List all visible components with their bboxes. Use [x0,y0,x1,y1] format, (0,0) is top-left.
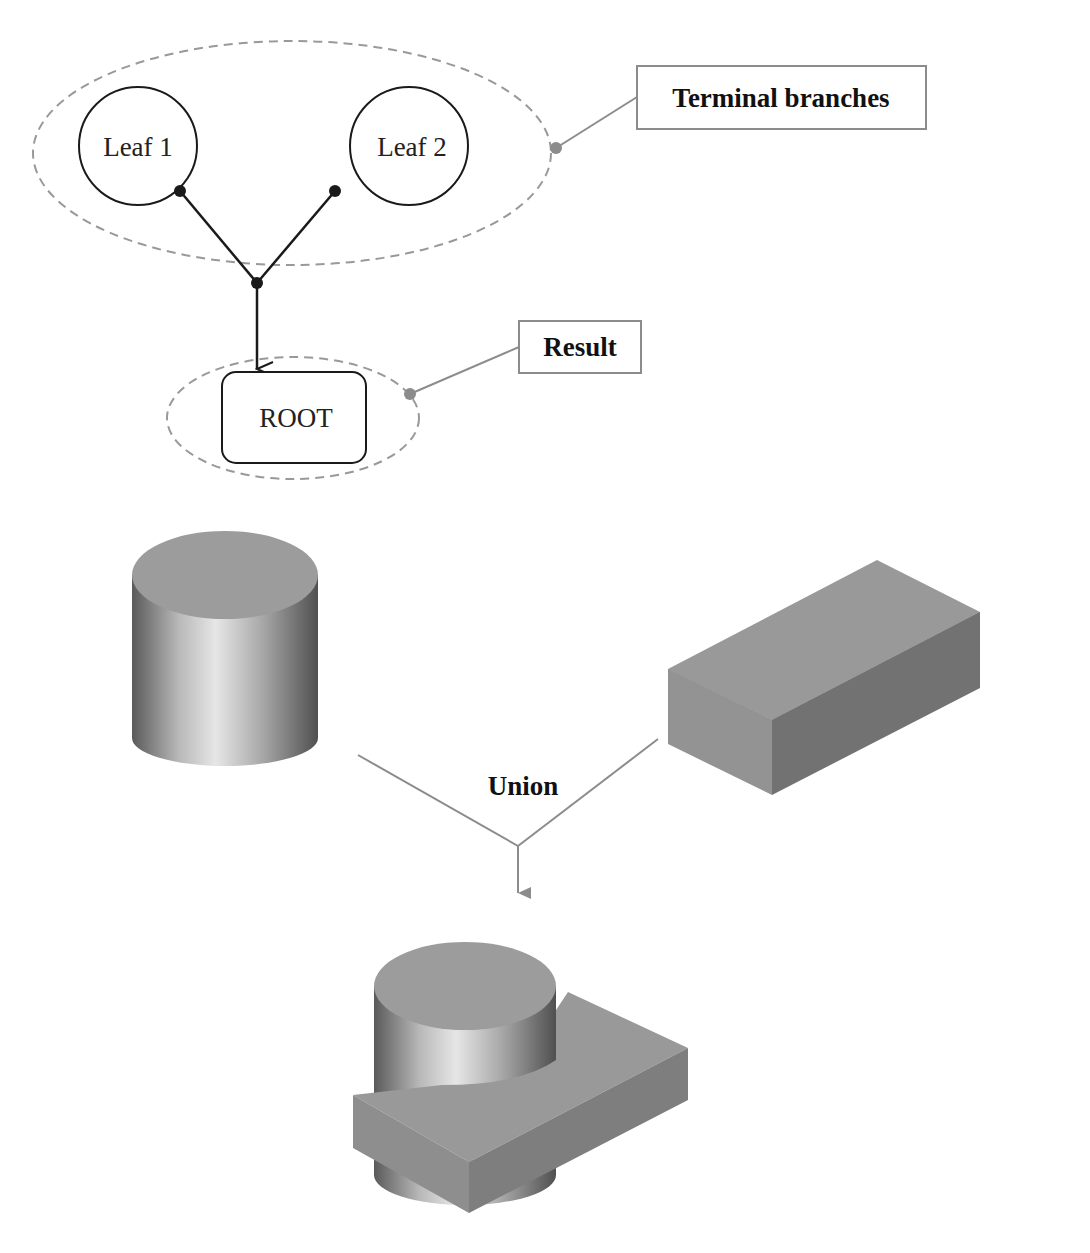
terminal-branches-callout: Terminal branches [550,66,926,154]
terminal-branches-group: Leaf 1 Leaf 2 [33,41,551,289]
union-label: Union [488,771,559,801]
union-connector: Union [358,739,658,893]
root-node[interactable]: ROOT [222,372,366,463]
result-callout: Result [404,321,641,400]
cylinder-shape [132,531,318,766]
edge-leaf2-join [257,191,335,283]
box-shape [668,560,980,795]
terminal-branches-label: Terminal branches [672,83,889,113]
csg-tree-diagram: Leaf 1 Leaf 2 ROOT Terminal branches Res… [0,0,1090,1253]
root-label: ROOT [259,403,333,433]
edge-leaf1-join [180,191,257,283]
leaf-2-node[interactable]: Leaf 2 [350,87,468,205]
leaf-2-port-dot [329,185,341,197]
leaf-1-port-dot [174,185,186,197]
leaf-2-label: Leaf 2 [377,132,447,162]
result-group: ROOT [167,357,419,479]
union-result-shape [353,942,688,1213]
leaf-1-label: Leaf 1 [103,132,173,162]
result-label: Result [543,332,617,362]
